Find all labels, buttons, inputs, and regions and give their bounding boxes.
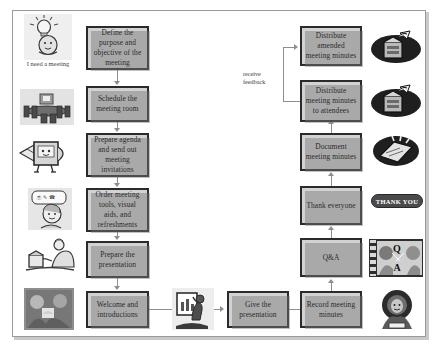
thank-you-banner-icon: THANK YOU (371, 194, 423, 208)
process-box-schedule-room[interactable]: Schedule the meeting room (86, 86, 149, 122)
svg-text:A: A (393, 262, 401, 273)
connector-qa-to-thank (331, 229, 332, 238)
process-box-define-purpose[interactable]: Define the purpose and objective of the … (86, 26, 149, 70)
svg-text:Q: Q (393, 243, 401, 254)
process-box-order-tools[interactable]: Order meeting tools, visual aids, and re… (86, 188, 149, 232)
question-answer-people-icon: Q A (369, 239, 423, 277)
arrow-presenter-to-give (220, 306, 224, 312)
thinking-person-icon: ☕ ✎ ☎ (28, 188, 72, 230)
process-box-record-minutes[interactable]: Record meeting minutes (300, 291, 362, 328)
flowchart-canvas: I need a meeting (0, 0, 439, 361)
lightbulb-idea-caption: I need a meeting (16, 60, 80, 68)
process-box-distribute-amended[interactable]: Distribute amended meeting minutes (300, 26, 362, 66)
feedback-label-line1: receive (243, 70, 261, 78)
email-envelope-icon (18, 135, 76, 175)
process-box-document-minutes[interactable]: Document meeting minutes (300, 133, 362, 171)
arrow-schedule-to-agenda (114, 128, 120, 132)
feedback-label-line2: feedback (243, 78, 265, 86)
arrow-define-to-schedule (114, 81, 120, 85)
person-at-desk-icon (22, 237, 78, 277)
process-box-prepare-agenda[interactable]: Prepare agenda and send out meeting invi… (86, 133, 149, 177)
presenter-easel-icon (172, 288, 214, 330)
connector-document-to-distribute (331, 124, 332, 133)
arrow-agenda-to-order (114, 183, 120, 187)
process-box-qa[interactable]: Q&A (300, 238, 362, 277)
arrow-feedback-into-amended (294, 44, 298, 50)
process-box-give-presentation[interactable]: Give the presentation (227, 291, 289, 328)
handshake-photo-icon (24, 288, 74, 330)
connector-thank-to-document (331, 175, 332, 186)
process-box-welcome-introductions[interactable]: Welcome and introductions (86, 291, 149, 328)
connector-feedback-bottom (283, 101, 301, 102)
mailbox-delivery-icon-1 (370, 24, 422, 66)
connector-record-to-qa (331, 283, 332, 291)
svg-text:☕ ✎ ☎: ☕ ✎ ☎ (36, 194, 55, 201)
conference-room-icon (20, 89, 74, 125)
connector-feedback-vertical (283, 47, 284, 102)
process-box-thank-everyone[interactable]: Thank everyone (300, 186, 362, 225)
lightbulb-idea-icon (24, 14, 72, 60)
note-taker-icon (374, 287, 420, 331)
mailbox-delivery-icon-2 (370, 78, 422, 120)
process-box-prepare-presentation[interactable]: Prepare the presentation (86, 241, 149, 278)
arrow-record-to-qa (328, 279, 334, 283)
arrow-qa-to-thank (328, 226, 334, 230)
process-box-distribute-attendees[interactable]: Distribute meeting minutes to attendees (300, 80, 362, 122)
arrow-prepare-to-welcome (114, 286, 120, 290)
arrow-thank-to-document (328, 172, 334, 176)
arrow-order-to-prepare (114, 236, 120, 240)
notepad-pen-icon (372, 134, 420, 168)
